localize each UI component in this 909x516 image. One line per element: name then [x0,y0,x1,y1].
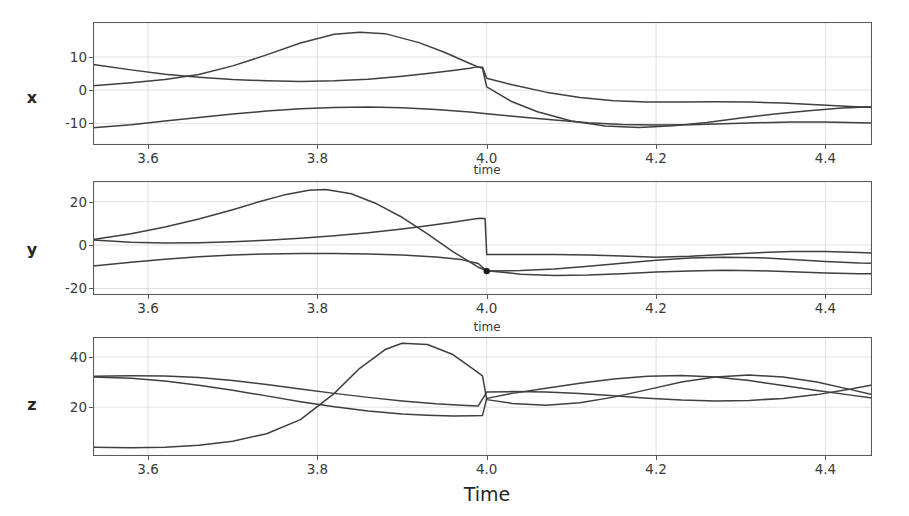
ytick-mark [89,357,93,358]
xtick-mark [487,145,488,149]
ytick-label: -20 [53,280,87,296]
xtick-label: 4.4 [815,150,836,166]
xtick-label: 3.8 [307,300,328,316]
subplot-x [93,22,872,145]
inner-xlabel-y: time [473,320,500,334]
xtick-label: 4.0 [476,300,497,316]
axes-frame [94,23,872,145]
plot-area-x [93,22,872,145]
ylabel-x: x [16,88,48,107]
series-line [93,107,872,128]
xtick-label: 3.6 [137,150,158,166]
ylabel-y: y [16,240,48,259]
ytick-mark [89,123,93,124]
axes-frame [94,338,872,456]
ytick-mark [89,245,93,246]
xtick-mark [656,145,657,149]
xtick-mark [317,295,318,299]
xtick-mark [148,145,149,149]
xtick-mark [656,295,657,299]
xtick-label: 3.6 [137,461,158,477]
xtick-label: 3.8 [307,150,328,166]
ytick-label: 40 [53,349,87,365]
xtick-label: 4.4 [815,461,836,477]
inner-xlabel-x: time [473,163,500,177]
xlabel-time: Time [464,483,511,505]
ytick-mark [89,202,93,203]
subplot-y [93,181,872,295]
xtick-label: 3.6 [137,300,158,316]
figure-canvas: x -10010 3.63.84.04.24.4 time y -20020 3… [0,0,909,516]
series-line [93,376,872,416]
xtick-label: 4.4 [815,300,836,316]
xtick-label: 4.2 [645,150,666,166]
xtick-label: 4.2 [645,461,666,477]
ytick-label: 0 [53,82,87,98]
series-line [93,376,872,406]
plot-area-y [93,181,872,295]
xtick-mark [825,295,826,299]
xtick-mark [487,295,488,299]
xtick-mark [825,456,826,460]
series-line [93,343,872,447]
ytick-mark [89,407,93,408]
ytick-mark [89,90,93,91]
ylabel-z: z [16,395,48,414]
ytick-label: 20 [53,399,87,415]
xtick-label: 3.8 [307,461,328,477]
xtick-mark [148,456,149,460]
ytick-label: -10 [53,115,87,131]
xtick-mark [317,145,318,149]
xtick-mark [148,295,149,299]
ytick-label: 0 [53,237,87,253]
xtick-label: 4.2 [645,300,666,316]
data-point-marker [484,268,490,274]
ytick-mark [89,288,93,289]
subplot-z [93,337,872,456]
ytick-label: 10 [53,49,87,65]
series-line [93,189,872,275]
xtick-mark [825,145,826,149]
series-line [93,218,872,257]
xtick-mark [317,456,318,460]
plot-area-z [93,337,872,456]
ytick-label: 20 [53,194,87,210]
ytick-mark [89,57,93,58]
axes-frame [94,182,872,295]
xtick-label: 4.0 [476,461,497,477]
xtick-mark [487,456,488,460]
xtick-mark [656,456,657,460]
